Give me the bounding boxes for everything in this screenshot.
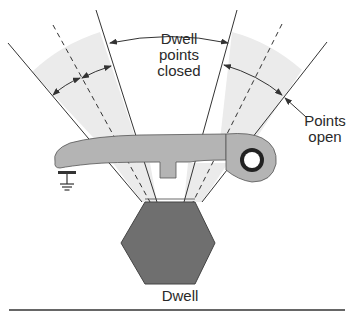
label-line: points: [124, 47, 234, 63]
contact-point: [58, 171, 76, 174]
label-line: Dwell: [124, 31, 234, 47]
dwell-label: Dwell: [140, 288, 220, 304]
pivot-bushing-hole: [244, 152, 260, 168]
label-line: open: [296, 129, 354, 145]
distributor-cam: [121, 202, 215, 284]
label-line: Points: [296, 113, 354, 129]
ground-icon: [60, 174, 74, 190]
left-open-sector: [32, 32, 136, 150]
diagram: Dwell points closed Points open Dwell: [0, 0, 357, 315]
points-open-label: Points open: [296, 113, 354, 145]
label-line: closed: [124, 63, 234, 79]
dwell-points-closed-label: Dwell points closed: [124, 31, 234, 79]
